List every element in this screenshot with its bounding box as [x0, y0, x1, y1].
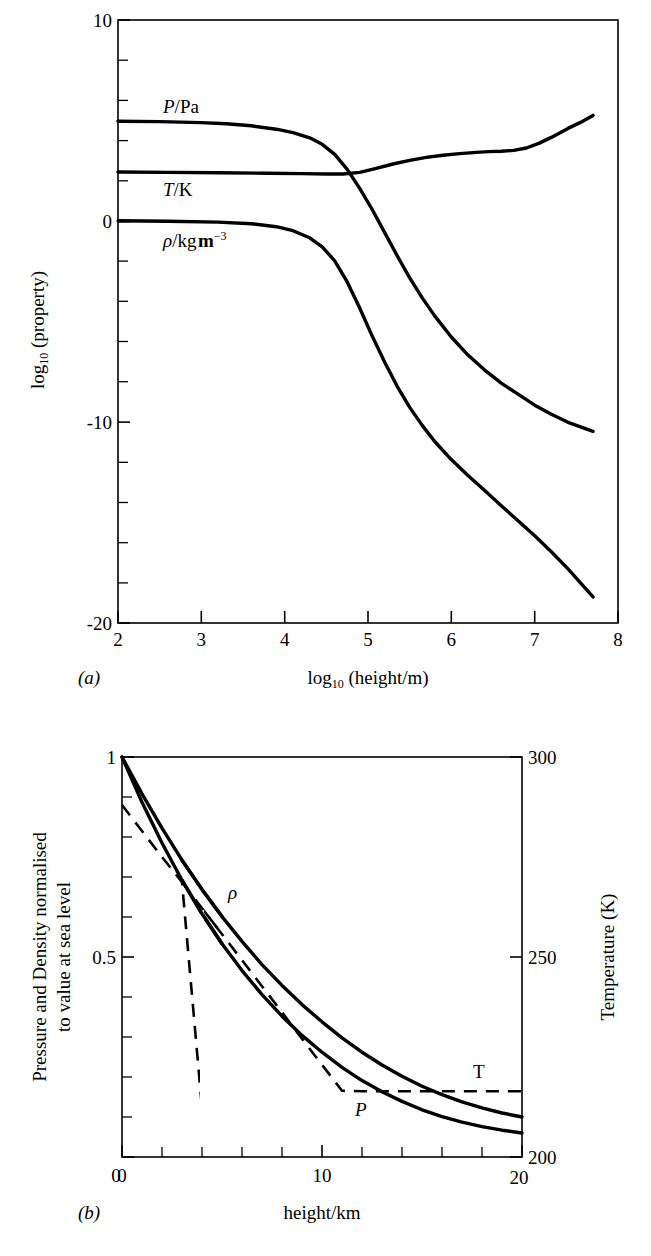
panel-a-ytick-neg20: -20: [87, 613, 112, 634]
panel-b-ytick-0p5: 0.5: [92, 947, 116, 968]
panel-b-xtick-0: 0: [117, 1165, 127, 1186]
panel-a-curve-label-temperature: T/K: [163, 179, 193, 200]
figure-svg: 10 0 -10 -20 2 3 4 5 6 7 8 log10 (proper…: [0, 0, 651, 1256]
panel-a-ylabel-log: log: [27, 364, 48, 389]
panel-a-curve-label-density: ρ/kg m−3: [162, 229, 227, 251]
panel-b: 1 0.5 0 300 250 200 0 10 20 Pressure and…: [29, 747, 619, 1224]
panel-a-ytick-10: 10: [93, 10, 112, 31]
panel-b-y2-axis-title: Temperature (K): [597, 894, 619, 1021]
panel-a-xlabel-rest: (height/m): [344, 667, 429, 689]
svg-text:log10 (property): log10 (property): [27, 271, 51, 389]
panel-a-xlabel-log: log: [307, 667, 332, 688]
panel-a-ytick-neg10: -10: [87, 412, 112, 433]
panel-b-label: (b): [78, 1202, 100, 1224]
panel-a-y-axis-title: log10 (property): [27, 271, 51, 389]
panel-a-xtick-6: 6: [447, 629, 457, 650]
panel-b-curve-density: [122, 757, 522, 1117]
panel-a-x-axis-title: log10 (height/m): [307, 667, 428, 691]
panel-b-ytick-1: 1: [107, 747, 117, 768]
panel-a-y-major-ticks: [118, 20, 130, 623]
panel-a-y-minor-ticks: [118, 60, 128, 583]
panel-b-curve-temperature: [122, 805, 522, 1108]
panel-b-y2tick-300: 300: [528, 747, 557, 768]
panel-b-curve-label-pressure: P: [354, 1099, 367, 1120]
panel-a-xtick-5: 5: [363, 629, 373, 650]
panel-b-curve-pressure: [122, 757, 522, 1133]
panel-a-curve-label-pressure: P/Pa: [162, 96, 199, 117]
panel-a-xtick-8: 8: [613, 629, 623, 650]
panel-a-curve-density: [118, 221, 593, 597]
panel-b-ylabel-line2: to value at sea level: [53, 882, 74, 1032]
panel-b-ylabel-line1: Pressure and Density normalised: [29, 832, 50, 1082]
panel-a: 10 0 -10 -20 2 3 4 5 6 7 8 log10 (proper…: [27, 10, 623, 691]
panel-a-ylabel-sub: 10: [37, 353, 51, 365]
panel-a-xtick-3: 3: [197, 629, 207, 650]
panel-b-y2tick-250: 250: [528, 947, 557, 968]
panel-b-x-major-ticks: [122, 1145, 522, 1157]
panel-b-curve-label-density: ρ: [227, 882, 237, 903]
panel-b-y2label: Temperature (K): [597, 894, 619, 1021]
atmosphere-properties-figure: 10 0 -10 -20 2 3 4 5 6 7 8 log10 (proper…: [0, 0, 651, 1256]
panel-a-xtick-7: 7: [530, 629, 540, 650]
svg-text:log10 (height/m): log10 (height/m): [307, 667, 428, 691]
panel-a-xtick-2: 2: [113, 629, 123, 650]
panel-a-xlabel-sub: 10: [332, 677, 344, 691]
panel-b-y-major-ticks: [122, 757, 134, 1157]
panel-a-x-ticks: [118, 611, 618, 623]
panel-a-ytick-0: 0: [103, 211, 113, 232]
panel-b-curve-label-temperature: T: [473, 1061, 485, 1082]
panel-a-label: (a): [78, 667, 100, 689]
panel-b-y2tick-200: 200: [528, 1147, 557, 1168]
panel-b-y-axis-title: Pressure and Density normalised to value…: [29, 832, 74, 1082]
panel-b-xlabel: height/km: [283, 1202, 360, 1223]
panel-a-curve-temperature: [118, 115, 593, 174]
panel-a-xtick-4: 4: [280, 629, 290, 650]
panel-a-curve-pressure: [118, 121, 593, 431]
panel-b-y2-ticks: [510, 757, 522, 1157]
panel-b-plot-frame: [122, 757, 522, 1157]
panel-b-xtick-20: 20: [510, 1167, 529, 1188]
panel-a-ylabel-rest: (property): [27, 271, 49, 353]
panel-b-xtick-10: 10: [313, 1165, 332, 1186]
